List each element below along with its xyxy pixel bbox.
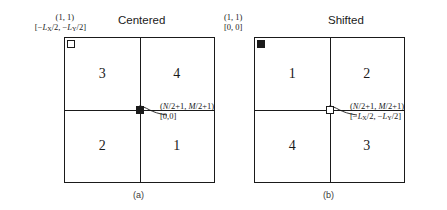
center-open-square-marker-b <box>326 106 334 114</box>
center-physical-coords-b: [−LX/2, −LY/2] <box>350 112 404 122</box>
panel-caption-b: (b) <box>323 190 334 200</box>
corner-physical-coords-b: [0, 0] <box>224 23 286 33</box>
quadrant-diagram-figure: Centered (1, 1) [−LX/2, −LY/2] 3 4 2 1 (… <box>0 0 447 210</box>
center-coordinate-label-a: (N/2+1, M/2+1) [0,0] <box>160 102 214 121</box>
quadrant-bottom-left-b: 4 <box>255 110 330 182</box>
corner-filled-square-marker-b <box>257 40 265 48</box>
quadrant-top-right-a: 4 <box>140 38 215 110</box>
corner-coordinate-label-b: (1, 1) [0, 0] <box>224 13 286 32</box>
center-filled-square-marker-a <box>136 106 144 114</box>
quadrant-top-left-b: 1 <box>255 38 330 110</box>
corner-open-square-marker-a <box>67 40 75 48</box>
panel-shifted: Shifted (1, 1) [0, 0] 1 2 4 3 (N/2+1, M/… <box>224 0 447 210</box>
corner-physical-coords-a: [−LX/2, −LY/2] <box>2 23 86 33</box>
quadrant-top-right-b: 2 <box>330 38 405 110</box>
panel-title-centered: Centered <box>118 14 165 26</box>
center-physical-coords-a: [0,0] <box>160 112 214 122</box>
corner-coordinate-label-a: (1, 1) [−LX/2, −LY/2] <box>2 13 86 32</box>
panel-centered: Centered (1, 1) [−LX/2, −LY/2] 3 4 2 1 (… <box>0 0 223 210</box>
panel-title-shifted: Shifted <box>328 14 364 26</box>
quadrant-bottom-left-a: 2 <box>65 110 140 182</box>
center-coordinate-label-b: (N/2+1, M/2+1) [−LX/2, −LY/2] <box>350 102 404 121</box>
quadrant-top-left-a: 3 <box>65 38 140 110</box>
panel-caption-a: (a) <box>133 190 144 200</box>
